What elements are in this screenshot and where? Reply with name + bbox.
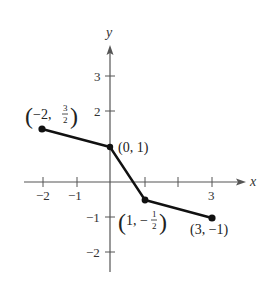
point-marker	[107, 144, 113, 150]
x-axis-label: x	[249, 174, 257, 189]
svg-text:(: (	[118, 209, 126, 235]
y-tick-label: 3	[94, 69, 101, 84]
svg-text:3: 3	[63, 103, 68, 113]
y-tick-label: 2	[94, 104, 101, 119]
svg-text:): )	[159, 209, 167, 235]
y-tick-label: −2	[86, 245, 100, 260]
point-marker	[208, 214, 215, 221]
point-label-1-neg-half: ( 1, − 1 2 )	[118, 209, 167, 235]
svg-text:(: (	[25, 103, 33, 129]
point-label-neg2-3half: ( −2, 3 2 )	[25, 103, 78, 129]
x-tick-label: 3	[208, 188, 215, 203]
y-axis-label: y	[104, 25, 113, 40]
chart-canvas: −2 −1 3 3 2 −1 −2 y x ( −2, 3 2 ) (0, 1)…	[0, 0, 271, 285]
svg-text:2: 2	[63, 115, 68, 125]
x-tick-label: −2	[36, 188, 50, 203]
svg-text:): )	[70, 103, 78, 129]
x-tick-label: −1	[68, 188, 82, 203]
point-marker	[142, 197, 149, 204]
svg-text:2: 2	[152, 221, 157, 231]
point-label-0-1: (0, 1)	[118, 140, 149, 156]
point-label-3-neg1: (3, −1)	[190, 222, 229, 238]
y-tick-label: −1	[86, 210, 100, 225]
svg-text:−2,: −2,	[33, 107, 51, 122]
svg-text:1: 1	[152, 209, 157, 219]
point-marker	[38, 125, 45, 132]
svg-text:1, −: 1, −	[126, 213, 148, 228]
axes	[24, 45, 246, 272]
